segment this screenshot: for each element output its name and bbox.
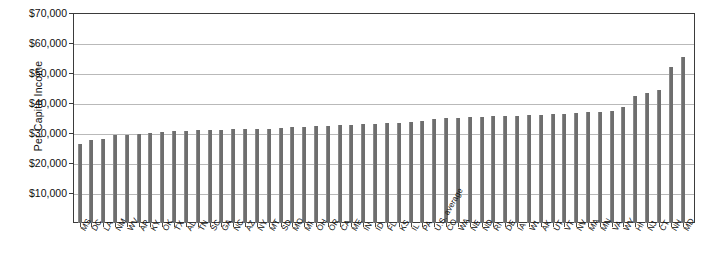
bar-series xyxy=(73,13,695,223)
y-axis-tick-labels: $70,000$60,000$50,000$40,000$30,000$20,0… xyxy=(0,0,72,277)
bar xyxy=(562,114,566,224)
bar xyxy=(113,135,117,223)
bar xyxy=(125,135,129,224)
y-tick-label: $50,000 xyxy=(29,68,67,78)
bar xyxy=(468,117,472,223)
bar xyxy=(172,131,176,223)
bar xyxy=(208,130,212,223)
bar xyxy=(503,116,507,223)
y-tick-label: $60,000 xyxy=(29,38,67,48)
bar xyxy=(586,112,590,223)
bar xyxy=(480,117,484,224)
bar xyxy=(373,124,377,223)
bar xyxy=(621,107,625,223)
bar xyxy=(361,124,365,223)
bar xyxy=(681,57,685,224)
bar xyxy=(267,129,271,224)
bar xyxy=(574,113,578,223)
bar xyxy=(409,122,413,223)
y-tick-label: $20,000 xyxy=(29,158,67,168)
bar xyxy=(491,116,495,223)
bar xyxy=(598,112,602,223)
y-tick-mark xyxy=(69,163,73,164)
bar xyxy=(302,127,306,223)
bar xyxy=(657,90,661,224)
y-tick-mark xyxy=(69,73,73,74)
bar xyxy=(314,126,318,223)
per-capita-income-bar-chart: Per Capita Income $70,000$60,000$50,000$… xyxy=(0,0,704,277)
bar xyxy=(196,130,200,223)
bar xyxy=(290,127,294,223)
y-tick-mark xyxy=(69,13,73,14)
bar xyxy=(610,111,614,223)
bar xyxy=(527,115,531,223)
bar xyxy=(255,129,259,223)
bar xyxy=(397,123,401,224)
bar xyxy=(456,118,460,223)
bar xyxy=(231,129,235,223)
bar xyxy=(148,133,152,223)
y-tick-mark xyxy=(69,133,73,134)
bar xyxy=(669,67,673,223)
bar xyxy=(432,119,436,223)
y-tick-label: $70,000 xyxy=(29,8,67,18)
y-tick-mark xyxy=(69,43,73,44)
bar xyxy=(101,139,105,223)
bar xyxy=(551,114,555,223)
bar xyxy=(279,128,283,223)
bar xyxy=(184,131,188,223)
bar xyxy=(539,115,543,223)
y-tick-label: $30,000 xyxy=(29,128,67,138)
bar xyxy=(326,126,330,223)
bar xyxy=(645,93,649,224)
bar xyxy=(385,123,389,223)
y-tick-mark xyxy=(69,103,73,104)
bar xyxy=(515,116,519,223)
bar xyxy=(160,132,164,223)
bar xyxy=(420,121,424,223)
bar xyxy=(338,125,342,223)
bar xyxy=(89,140,93,223)
bar xyxy=(243,129,247,223)
y-tick-label: $40,000 xyxy=(29,98,67,108)
bar xyxy=(219,130,223,223)
bar xyxy=(137,134,141,223)
y-tick-label: $10,000 xyxy=(29,188,67,198)
y-tick-mark xyxy=(69,193,73,194)
bar xyxy=(633,96,637,223)
bar xyxy=(78,144,82,224)
x-axis-tick-labels: MSDCLANMWVARKYOKTXALTNSCGANCAZNYMTSDMOMI… xyxy=(73,228,704,277)
bar xyxy=(349,125,353,223)
